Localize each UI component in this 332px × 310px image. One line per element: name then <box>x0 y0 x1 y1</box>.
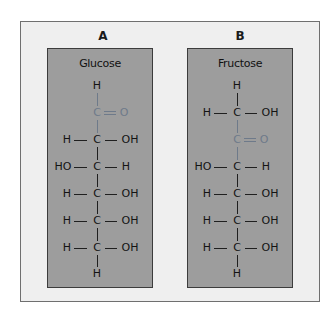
bond-vertical <box>97 228 98 241</box>
atom-right: OH <box>262 215 279 227</box>
bond-left <box>214 194 227 195</box>
bond-left <box>214 221 227 222</box>
atom-carbon: C <box>93 107 101 119</box>
bond-vertical <box>237 255 238 267</box>
atom-carbon: C <box>233 107 241 119</box>
bond-right <box>245 248 257 249</box>
bond-right <box>245 221 257 222</box>
atom-left: H <box>203 107 211 119</box>
atom-bottom-h: H <box>93 268 101 280</box>
bond-vertical <box>237 120 238 133</box>
fructose-title: Fructose <box>188 57 292 70</box>
atom-right: OH <box>122 215 139 227</box>
bond-right <box>105 248 117 249</box>
bond-left <box>214 248 227 249</box>
atom-oxygen: O <box>120 107 129 119</box>
atom-left: HO <box>55 161 72 173</box>
bond-left <box>74 194 87 195</box>
atom-right: OH <box>262 188 279 200</box>
bond-right <box>105 167 117 168</box>
atom-carbon: C <box>233 134 241 146</box>
bond-vertical <box>97 147 98 160</box>
atom-left: H <box>63 134 71 146</box>
panel-label-b: B <box>220 29 260 43</box>
panel-label-a: A <box>83 29 123 43</box>
atom-right: H <box>122 161 130 173</box>
glucose-title: Glucose <box>48 57 152 70</box>
atom-left: H <box>203 242 211 254</box>
bond-vertical <box>97 93 98 106</box>
bond-vertical <box>97 174 98 187</box>
bond-right <box>105 140 117 141</box>
atom-carbon: C <box>93 188 101 200</box>
atom-left: H <box>63 188 71 200</box>
bond-right <box>245 194 257 195</box>
bond-right <box>245 113 257 114</box>
atom-top-h: H <box>233 80 241 92</box>
bond-right <box>105 194 117 195</box>
bond-vertical <box>237 201 238 214</box>
atom-oxygen: O <box>260 134 269 146</box>
atom-carbon: C <box>93 242 101 254</box>
bond-left <box>74 167 87 168</box>
atom-left: H <box>63 242 71 254</box>
bond-left <box>74 221 87 222</box>
bond-right <box>105 221 117 222</box>
bond-left <box>74 248 87 249</box>
bond-double <box>244 138 256 142</box>
bond-vertical <box>97 120 98 133</box>
bond-left <box>214 167 227 168</box>
atom-right: OH <box>122 134 139 146</box>
bond-vertical <box>237 147 238 160</box>
atom-carbon: C <box>233 188 241 200</box>
atom-carbon: C <box>233 242 241 254</box>
atom-top-h: H <box>93 80 101 92</box>
atom-right: OH <box>122 242 139 254</box>
atom-left: H <box>203 188 211 200</box>
bond-right <box>245 167 257 168</box>
bond-vertical <box>237 228 238 241</box>
atom-carbon: C <box>93 134 101 146</box>
bond-vertical <box>97 201 98 214</box>
atom-left: H <box>203 215 211 227</box>
atom-carbon: C <box>93 161 101 173</box>
bond-left <box>214 113 227 114</box>
atom-right: OH <box>262 242 279 254</box>
atom-right: OH <box>262 107 279 119</box>
bond-vertical <box>237 174 238 187</box>
bond-left <box>74 140 87 141</box>
bond-vertical <box>97 255 98 267</box>
atom-left: H <box>63 215 71 227</box>
atom-carbon: C <box>93 215 101 227</box>
atom-carbon: C <box>233 215 241 227</box>
atom-right: OH <box>122 188 139 200</box>
atom-right: H <box>262 161 270 173</box>
atom-carbon: C <box>233 161 241 173</box>
bond-double <box>104 111 116 115</box>
bond-vertical <box>237 93 238 106</box>
atom-left: HO <box>195 161 212 173</box>
atom-bottom-h: H <box>233 268 241 280</box>
